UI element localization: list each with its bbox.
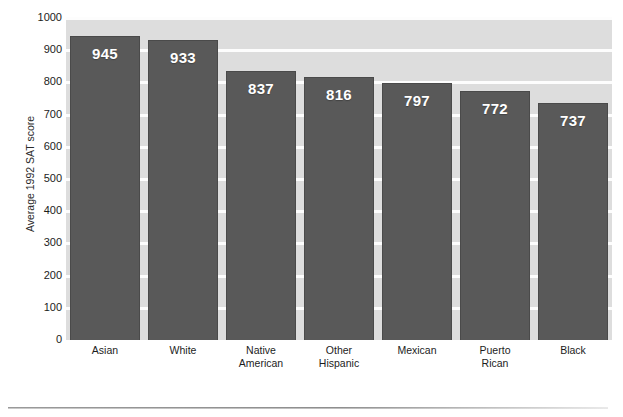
y-axis-tick-800: 800 (22, 76, 62, 87)
x-axis-label-line: Native (222, 344, 300, 357)
x-axis-label-asian: Asian (66, 344, 144, 357)
bar-mexican: 797 (382, 83, 452, 340)
x-axis-label-line: Black (534, 344, 612, 357)
bar-value-label: 945 (71, 45, 139, 62)
x-axis-tick-labels: AsianWhiteNativeAmericanOtherHispanicMex… (66, 344, 612, 378)
bar-value-label: 837 (227, 80, 295, 97)
x-axis-label-mexican: Mexican (378, 344, 456, 357)
y-axis-tick-100: 100 (22, 302, 62, 313)
plot-area: 945933837816797772737 (66, 18, 612, 340)
bar-black: 737 (538, 103, 608, 340)
x-axis-label-black: Black (534, 344, 612, 357)
x-axis-label-line: Rican (456, 357, 534, 370)
y-axis-tick-200: 200 (22, 270, 62, 281)
bar-other-hispanic: 816 (304, 77, 374, 340)
footer-divider-shadow (8, 408, 608, 409)
x-axis-label-line: Mexican (378, 344, 456, 357)
x-axis-label-other-hispanic: OtherHispanic (300, 344, 378, 370)
bar-asian: 945 (70, 36, 140, 340)
bar-chart-figure: Average 1992 SAT score 10009008007006005… (0, 0, 623, 417)
x-axis-label-line: Puerto (456, 344, 534, 357)
y-axis-tick-labels: 10009008007006005004003002001000 (18, 18, 62, 340)
bar-value-label: 816 (305, 86, 373, 103)
x-axis-label-line: Other (300, 344, 378, 357)
y-axis-tick-600: 600 (22, 141, 62, 152)
x-axis-label-line: American (222, 357, 300, 370)
x-axis-label-puerto-rican: PuertoRican (456, 344, 534, 370)
y-axis-tick-300: 300 (22, 237, 62, 248)
chart-title (0, 0, 623, 3)
y-axis-tick-400: 400 (22, 205, 62, 216)
x-axis-label-line: White (144, 344, 222, 357)
plot-inner: 945933837816797772737 (66, 18, 612, 340)
bar-value-label: 737 (539, 112, 607, 129)
y-axis-tick-1000: 1000 (22, 12, 62, 23)
x-axis-label-white: White (144, 344, 222, 357)
y-axis-tick-0: 0 (22, 334, 62, 345)
x-axis-label-native-american: NativeAmerican (222, 344, 300, 370)
bar-value-label: 797 (383, 92, 451, 109)
x-axis-label-line: Asian (66, 344, 144, 357)
bar-value-label: 772 (461, 100, 529, 117)
x-axis-label-line: Hispanic (300, 357, 378, 370)
bar-value-label: 933 (149, 49, 217, 66)
y-axis-tick-900: 900 (22, 44, 62, 55)
bar-white: 933 (148, 40, 218, 340)
y-axis-tick-700: 700 (22, 109, 62, 120)
y-axis-tick-500: 500 (22, 173, 62, 184)
gridline-1000 (66, 17, 612, 20)
bar-puerto-rican: 772 (460, 91, 530, 340)
bar-native-american: 837 (226, 71, 296, 341)
